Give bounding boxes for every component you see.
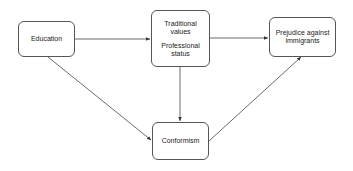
node-conformism-label: Conformism bbox=[162, 137, 200, 145]
node-prejudice: Prejudice against immigrants bbox=[269, 17, 336, 57]
node-traditional-line2: values bbox=[170, 28, 190, 36]
arrow-conformism-to-prejudice bbox=[209, 57, 301, 141]
node-traditional-line1: Traditional bbox=[164, 20, 196, 28]
node-prejudice-line1: Prejudice against bbox=[276, 29, 330, 37]
node-traditional-values: Traditional values Professional status bbox=[151, 10, 210, 67]
arrow-education-to-conformism bbox=[48, 57, 151, 140]
node-traditional-line4: status bbox=[171, 50, 190, 58]
node-traditional-line3: Professional bbox=[161, 42, 200, 50]
node-prejudice-line2: immigrants bbox=[285, 37, 319, 45]
node-conformism: Conformism bbox=[152, 122, 209, 160]
node-education: Education bbox=[18, 21, 75, 57]
node-education-label: Education bbox=[31, 35, 62, 43]
